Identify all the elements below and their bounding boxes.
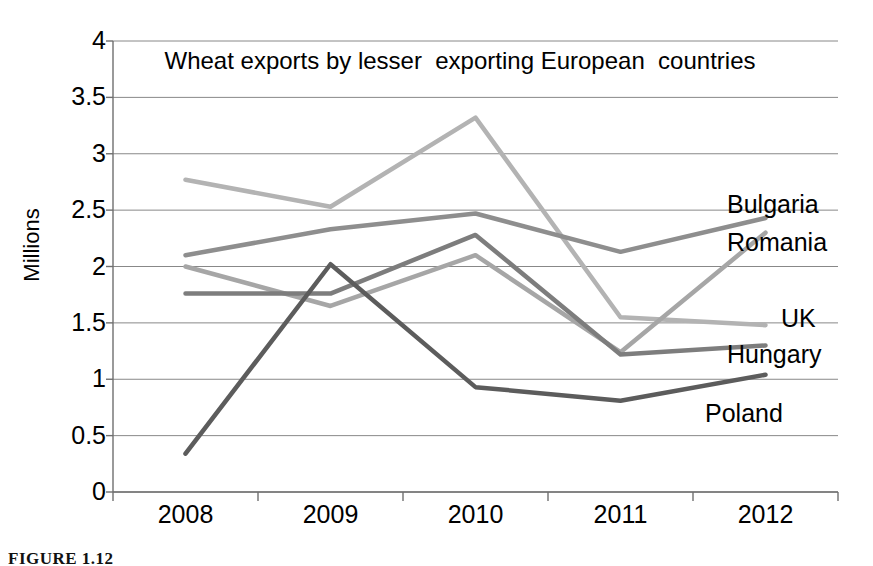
chart-title: Wheat exports by lesser exporting Europe… [150,47,770,75]
x-axis-tick-label-2008: 2008 [126,500,246,528]
y-axis-tick-label: 2 [42,254,106,279]
chart-plot-area: 43.532.521.510.50 Millions Wheat exports… [0,0,873,566]
series-label-hungary: Hungary [727,341,822,367]
x-axis-tick-label-2012: 2012 [706,500,826,528]
axis-ticks-group [106,41,838,501]
y-axis-tick-label: 0.5 [42,423,106,448]
y-axis-tick-label: 3 [42,141,106,166]
series-label-uk: UK [781,305,816,331]
series-lines-group [186,118,766,454]
y-axis-tick-label: 1.5 [42,310,106,335]
y-axis-tick-label: 4 [42,28,106,53]
series-label-poland: Poland [705,400,783,426]
x-axis-tick-label-2010: 2010 [416,500,536,528]
x-axis-tick-label-2009: 2009 [271,500,391,528]
figure-caption: FIGURE 1.12 [8,549,114,566]
series-label-romania: Romania [727,229,827,255]
y-axis-tick-label: 2.5 [42,197,106,222]
figure-container: 43.532.521.510.50 Millions Wheat exports… [0,0,873,566]
line-chart-svg [0,0,873,566]
y-axis-tick-label: 3.5 [42,84,106,109]
series-label-bulgaria: Bulgaria [727,191,819,217]
x-axis-tick-label-2011: 2011 [561,500,681,528]
y-axis-title: Millions [19,180,45,310]
y-axis-tick-label: 1 [42,366,106,391]
y-axis-tick-label: 0 [42,479,106,504]
